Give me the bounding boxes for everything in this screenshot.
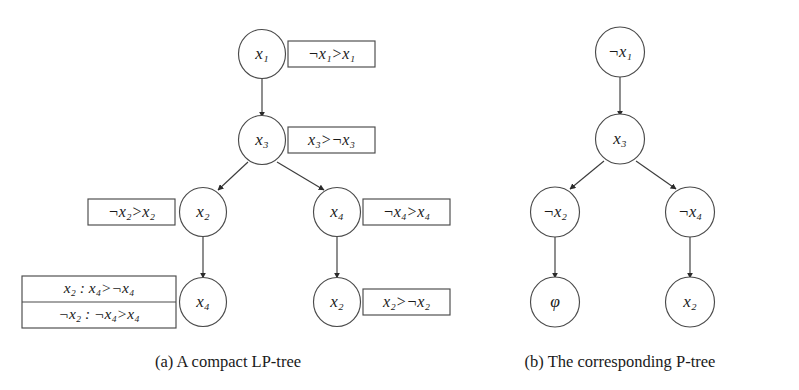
node-b-n3-label: ¬x₂ — [543, 202, 567, 221]
node-a-n4-label: x₄ — [329, 202, 344, 221]
preference-table-a-cpt2-row-0: x₃>¬x₃ — [307, 131, 355, 148]
preference-table-a-cpt2[interactable]: x₃>¬x₃ — [288, 127, 375, 153]
node-a-n3[interactable]: x₂ — [180, 188, 227, 237]
node-b-n2-label: x₃ — [612, 129, 627, 148]
node-b-n4[interactable]: ¬x₄ — [666, 187, 715, 237]
preference-table-a-cpt6[interactable]: x₂>¬x₂ — [363, 289, 450, 315]
node-a-n1-label: x₁ — [254, 44, 268, 63]
node-a-n5[interactable]: x₄ — [180, 278, 227, 327]
preference-table-a-cpt5-row-0: x₂ : x₄>¬x₄ — [63, 279, 135, 296]
preference-table-a-cpt1-row-0: ¬x₁>x₁ — [308, 45, 355, 62]
node-b-n5-label: φ — [550, 291, 560, 311]
node-b-n3[interactable]: ¬x₂ — [531, 187, 580, 237]
node-b-n5[interactable]: φ — [531, 277, 580, 327]
node-b-n6-label: x₂ — [682, 292, 697, 311]
preference-table-a-cpt4[interactable]: ¬x₄>x₄ — [363, 199, 450, 225]
preference-table-a-cpt5[interactable]: x₂ : x₄>¬x₄ ¬x₂ : ¬x₄>x₄ — [22, 276, 176, 328]
preference-table-a-cpt3[interactable]: ¬x₂>x₂ — [88, 199, 175, 225]
node-b-n1-label: ¬x₁ — [608, 42, 632, 61]
preference-table-a-cpt5-row-1: ¬x₂ : ¬x₄>x₄ — [58, 305, 139, 322]
node-a-n4[interactable]: x₄ — [314, 188, 361, 237]
preference-table-a-cpt3-row-0: ¬x₂>x₂ — [108, 203, 155, 220]
preference-table-a-cpt4-row-0: ¬x₄>x₄ — [383, 203, 430, 220]
node-b-n1[interactable]: ¬x₁ — [596, 27, 645, 77]
node-a-n6[interactable]: x₂ — [314, 278, 361, 327]
panel-b-caption: (b) The corresponding P-tree — [525, 352, 716, 371]
preference-table-a-cpt6-row-0: x₂>¬x₂ — [382, 293, 430, 310]
node-a-n6-label: x₂ — [329, 292, 344, 311]
node-a-n1[interactable]: x₁ — [239, 30, 286, 79]
node-a-n2-label: x₃ — [254, 130, 269, 149]
preference-table-a-cpt1[interactable]: ¬x₁>x₁ — [288, 41, 375, 67]
node-b-n2[interactable]: x₃ — [596, 114, 645, 164]
node-b-n6[interactable]: x₂ — [666, 277, 715, 327]
node-a-n2[interactable]: x₃ — [239, 116, 286, 165]
panel-a-caption: (a) A compact LP-tree — [155, 352, 301, 371]
node-b-n4-label: ¬x₄ — [678, 202, 702, 221]
node-a-n5-label: x₄ — [195, 292, 210, 311]
figure-two-tree-diagrams: x₁ x₃ x₂ x₄ x₄ x₂ ¬x₁>x₁ — [0, 0, 799, 390]
node-a-n3-label: x₂ — [195, 202, 210, 221]
